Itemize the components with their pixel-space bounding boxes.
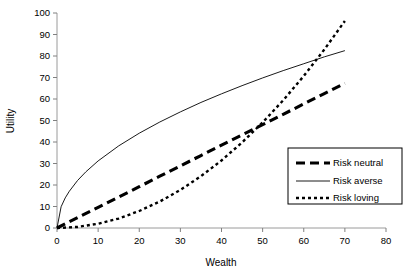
y-tick-label: 100 bbox=[34, 7, 50, 18]
x-axis-title: Wealth bbox=[206, 257, 237, 268]
y-tick-label: 60 bbox=[39, 93, 50, 104]
legend-label-risk-neutral: Risk neutral bbox=[333, 157, 383, 168]
x-tick-label: 50 bbox=[257, 235, 268, 246]
x-tick-label: 20 bbox=[134, 235, 145, 246]
x-tick-label: 40 bbox=[216, 235, 227, 246]
chart-canvas: 0102030405060708090100 01020304050607080… bbox=[0, 0, 409, 276]
x-tick-label: 60 bbox=[298, 235, 309, 246]
y-tick-label: 70 bbox=[39, 72, 50, 83]
x-tick-label: 80 bbox=[381, 235, 392, 246]
x-tick-label: 10 bbox=[93, 235, 104, 246]
x-tick-label: 30 bbox=[175, 235, 186, 246]
y-axis-title: Utility bbox=[5, 109, 16, 133]
legend-label-risk-averse: Risk averse bbox=[333, 175, 383, 186]
chart-legend[interactable]: Risk neutral Risk averse Risk loving bbox=[288, 148, 402, 204]
y-tick-label: 80 bbox=[39, 50, 50, 61]
x-tick-label: 70 bbox=[340, 235, 351, 246]
utility-chart: 0102030405060708090100 01020304050607080… bbox=[0, 0, 409, 276]
x-tick-label: 0 bbox=[54, 235, 59, 246]
y-tick-label: 40 bbox=[39, 136, 50, 147]
y-tick-label: 20 bbox=[39, 179, 50, 190]
legend-label-risk-loving: Risk loving bbox=[333, 192, 379, 203]
y-tick-label: 50 bbox=[39, 115, 50, 126]
y-tick-label: 10 bbox=[39, 201, 50, 212]
y-tick-label: 30 bbox=[39, 158, 50, 169]
y-tick-label: 90 bbox=[39, 29, 50, 40]
y-tick-label: 0 bbox=[45, 222, 50, 233]
